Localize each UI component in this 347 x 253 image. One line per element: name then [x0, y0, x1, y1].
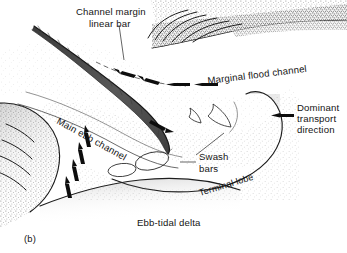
label-swash-line1: Swash	[199, 151, 229, 162]
label-dominant-line3: direction	[297, 124, 335, 135]
figure-canvas: Channel margin linear bar Main ebb chann…	[0, 0, 347, 253]
label-ebb-tidal-delta: Ebb-tidal delta	[137, 217, 201, 228]
panel-label: (b)	[24, 233, 36, 244]
label-swash-line2: bars	[199, 163, 218, 174]
label-dominant-line1: Dominant	[297, 102, 339, 113]
label-channel-margin-line1: Channel margin	[76, 6, 146, 17]
label-channel-margin-line2: linear bar	[89, 18, 131, 29]
label-dominant-line2: transport	[297, 113, 336, 124]
ebb-tidal-delta-diagram: Channel margin linear bar Main ebb chann…	[0, 0, 347, 253]
